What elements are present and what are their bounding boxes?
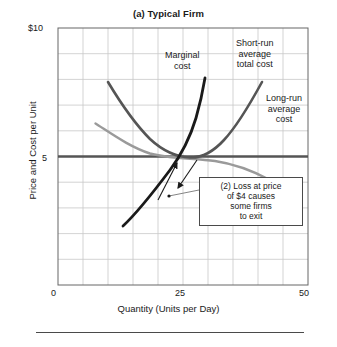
short-run-atc-label-line2: average [236,49,274,60]
annotation-line-1: (2) Loss at price [202,181,300,191]
bottom-divider [36,332,304,333]
marginal-cost-label-line2: cost [165,61,200,72]
annotation-line-3: some firms [202,201,300,211]
marginal-cost-label: Marginal cost [165,50,200,71]
y-axis-label: Price and Cost per Unit [27,71,38,231]
annotation-leader-dot [167,194,170,197]
annotation-line-2: of $4 causes [202,191,300,201]
long-run-ac-label: Long-run average cost [266,93,302,125]
annotation-callout: (2) Loss at price of $4 causes some firm… [199,177,303,226]
x-axis-tick-50: 50 [299,288,309,298]
long-run-ac-label-line1: Long-run [266,93,302,104]
x-axis-tick-25: 25 [175,288,185,298]
x-axis-tick-0: 0 [51,288,56,298]
short-run-atc-label-line3: total cost [236,59,274,70]
annotation-line-4: to exit [202,211,300,221]
figure-panel: (a) Typical Firm [0,0,337,347]
x-axis-label: Quantity (Units per Day) [0,303,337,314]
short-run-atc-label-line1: Short-run [236,38,274,49]
y-axis-tick-5: 5 [42,153,47,163]
long-run-ac-label-line3: cost [266,114,302,125]
marginal-cost-label-line1: Marginal [165,50,200,61]
long-run-ac-label-line2: average [266,104,302,115]
y-axis-tick-10: $10 [28,23,43,33]
short-run-atc-label: Short-run average total cost [236,38,274,70]
